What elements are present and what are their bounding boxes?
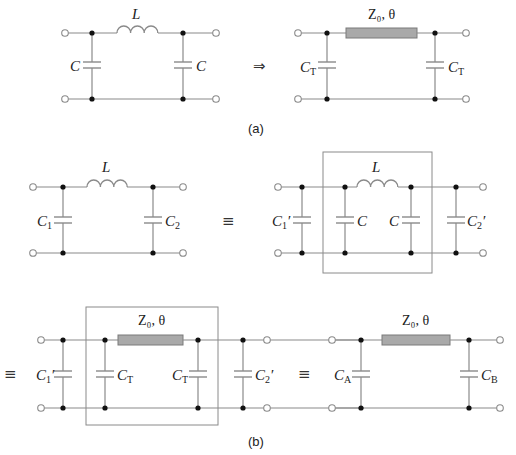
- terminal-icon: [180, 250, 187, 257]
- terminal-icon: [497, 337, 504, 344]
- terminal-icon: [264, 405, 271, 412]
- cap-label: CT: [300, 59, 316, 77]
- terminal-icon: [295, 30, 302, 37]
- transmission-line-icon: [382, 335, 450, 345]
- cap-label: C1′: [36, 367, 55, 385]
- equivalent-icon: ≡: [222, 212, 235, 230]
- inductor-label: L: [131, 6, 140, 22]
- inductor-label: L: [371, 159, 380, 175]
- circuit-b-row2-left: Z₀, θ C1′ CT CT C2′: [36, 307, 364, 425]
- circuit-figure: L C C ⇒ Z₀, θ CT CT (a): [0, 0, 516, 455]
- terminal-icon: [38, 337, 45, 344]
- cap-label: C2: [165, 213, 180, 231]
- cap-label: CT: [172, 367, 188, 385]
- terminal-icon: [329, 405, 336, 412]
- cap-label: C2′: [467, 213, 486, 231]
- caption-b: (b): [248, 434, 264, 449]
- terminal-icon: [62, 30, 69, 37]
- terminal-icon: [38, 405, 45, 412]
- terminal-icon: [275, 184, 282, 191]
- cap-label: CT: [117, 367, 133, 385]
- terminal-icon: [180, 184, 187, 191]
- cap-label: C1: [37, 213, 52, 231]
- terminal-icon: [463, 96, 470, 103]
- circuit-a-left-lc-pi: L C C: [62, 6, 220, 102]
- cap-label: C2′: [255, 367, 274, 385]
- cap-label: C: [357, 213, 368, 229]
- terminal-icon: [275, 250, 282, 257]
- tline-label: Z₀, θ: [402, 313, 429, 328]
- circuit-a-right-tl-pi: Z₀, θ CT CT: [295, 7, 470, 102]
- terminal-icon: [213, 30, 220, 37]
- terminal-icon: [480, 184, 487, 191]
- equivalent-icon: ≡: [4, 365, 17, 383]
- circuit-b-row1-left: L C1 C2: [30, 159, 187, 256]
- cap-label: CT: [448, 59, 464, 77]
- inductor-label: L: [101, 159, 110, 175]
- transmission-line-icon: [118, 335, 183, 345]
- terminal-icon: [62, 96, 69, 103]
- tline-label: Z₀, θ: [138, 313, 165, 328]
- cap-label: C: [70, 58, 81, 74]
- inductor-icon: [87, 180, 127, 187]
- cap-label: CA: [334, 367, 352, 385]
- terminal-icon: [213, 96, 220, 103]
- terminal-icon: [30, 184, 37, 191]
- inductor-icon: [357, 180, 398, 187]
- cap-label: CB: [481, 367, 498, 385]
- cap-label: C: [196, 58, 207, 74]
- terminal-icon: [463, 30, 470, 37]
- cap-label: C: [389, 213, 400, 229]
- caption-a: (a): [248, 121, 264, 136]
- inductor-icon: [117, 26, 158, 33]
- terminal-icon: [264, 337, 271, 344]
- implies-arrow-icon: ⇒: [253, 57, 266, 75]
- transmission-line-icon: [346, 28, 417, 38]
- terminal-icon: [497, 405, 504, 412]
- terminal-icon: [295, 96, 302, 103]
- terminal-icon: [30, 250, 37, 257]
- tline-label: Z₀, θ: [368, 7, 395, 22]
- circuit-b-row2-right: Z₀, θ CA CB: [329, 313, 504, 411]
- terminal-icon: [329, 337, 336, 344]
- cap-label: C1′: [272, 213, 291, 231]
- equivalent-icon: ≡: [298, 365, 311, 383]
- terminal-icon: [480, 250, 487, 257]
- circuit-b-row1-right: L C1′ C C C2′: [272, 152, 486, 273]
